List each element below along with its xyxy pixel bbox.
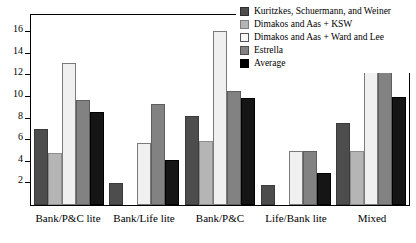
bar xyxy=(90,112,104,205)
bar xyxy=(137,143,151,205)
bar-group xyxy=(109,15,179,205)
x-axis-label: Bank/Life lite xyxy=(107,208,181,230)
legend-label: Average xyxy=(254,58,285,69)
y-axis-tick-label: 10 xyxy=(13,89,23,99)
x-axis: Bank/P&C liteBank/Life liteBank/P&CLife/… xyxy=(30,208,410,230)
bar xyxy=(151,104,165,205)
bar xyxy=(109,183,123,205)
bar xyxy=(350,151,364,205)
chart-legend: Kuritzkes, Schuermann, and WeinerDimakos… xyxy=(236,3,414,73)
bar xyxy=(364,52,378,205)
legend-swatch-icon xyxy=(240,20,249,29)
legend-swatch-icon xyxy=(240,46,249,55)
legend-label: Dimakos and Aas + KSW xyxy=(254,19,352,30)
bar xyxy=(76,100,90,205)
legend-swatch-icon xyxy=(240,7,249,16)
bar xyxy=(378,71,392,205)
y-axis-tick-label: 8 xyxy=(18,111,23,121)
legend-label: Kuritzkes, Schuermann, and Weiner xyxy=(254,6,391,17)
bar-chart: 246810121416 Bank/P&C liteBank/Life lite… xyxy=(0,0,416,243)
legend-item: Kuritzkes, Schuermann, and Weiner xyxy=(240,5,412,18)
bar xyxy=(34,129,48,205)
bar xyxy=(165,160,179,205)
bar xyxy=(213,31,227,205)
y-axis: 246810121416 xyxy=(0,14,30,206)
y-axis-tick-label: 12 xyxy=(13,67,23,77)
y-axis-tick-label: 2 xyxy=(18,175,23,185)
x-axis-label: Bank/P&C lite xyxy=(31,208,105,230)
y-axis-tick-label: 14 xyxy=(13,46,23,56)
y-axis-tick-label: 16 xyxy=(13,24,23,34)
legend-swatch-icon xyxy=(240,33,249,42)
legend-item: Estrella xyxy=(240,44,412,57)
legend-item: Dimakos and Aas + Ward and Lee xyxy=(240,31,412,44)
bar xyxy=(289,151,303,205)
bar xyxy=(303,151,317,205)
bar xyxy=(227,91,241,205)
x-axis-label: Mixed xyxy=(335,208,409,230)
bar xyxy=(241,98,255,205)
bar xyxy=(48,153,62,205)
bar xyxy=(317,173,331,205)
legend-item: Dimakos and Aas + KSW xyxy=(240,18,412,31)
bar xyxy=(336,123,350,205)
legend-label: Dimakos and Aas + Ward and Lee xyxy=(254,32,384,43)
legend-item: Average xyxy=(240,57,412,70)
x-axis-label: Bank/P&C xyxy=(183,208,257,230)
legend-swatch-icon xyxy=(240,59,249,68)
y-axis-tick-label: 4 xyxy=(18,154,23,164)
bar xyxy=(261,185,275,206)
bar xyxy=(62,63,76,206)
legend-label: Estrella xyxy=(254,45,283,56)
bar xyxy=(185,116,199,205)
bar-group xyxy=(34,15,104,205)
bar xyxy=(199,141,213,205)
y-axis-tick-label: 6 xyxy=(18,132,23,142)
bar xyxy=(392,97,406,205)
x-axis-label: Life/Bank lite xyxy=(259,208,333,230)
